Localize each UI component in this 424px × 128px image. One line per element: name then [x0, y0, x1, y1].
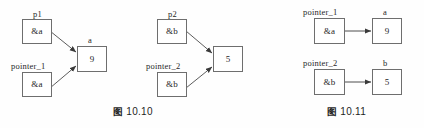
box-p2: &b	[157, 19, 187, 44]
box-pointer-1: &a	[22, 72, 52, 97]
figure-sheet: p1 &a pointer_1 &a a 9 p2 &b pointer_2 &…	[0, 0, 424, 128]
caption-fig-10-10: 图 10.10	[113, 107, 153, 117]
arrow-p2-to-b	[186, 31, 212, 53]
label-p1: p1	[33, 10, 42, 19]
caption-fig-10-11: 图 10.11	[327, 107, 366, 117]
caption-number: 10.10	[126, 106, 153, 117]
label-pointer-1-right: pointer_1	[303, 8, 337, 17]
box-a-value-right: 9	[372, 18, 402, 44]
box-pointer-2: &b	[157, 72, 187, 97]
label-pointer-1: pointer_1	[11, 62, 45, 71]
label-pointer-2: pointer_2	[146, 62, 180, 71]
caption-cn-glyph: 图	[113, 106, 123, 117]
box-b-value-right: 5	[372, 69, 402, 95]
caption-cn-glyph: 图	[327, 106, 337, 117]
box-b-value-middle: 5	[213, 46, 243, 72]
arrow-pointer1-to-a	[50, 66, 76, 88]
box-a-value-left: 9	[77, 46, 107, 72]
box-pointer-2-right: &b	[314, 69, 345, 95]
label-pointer-2-right: pointer_2	[303, 59, 337, 68]
box-pointer-1-right: &a	[314, 18, 345, 44]
caption-number: 10.11	[340, 106, 366, 117]
label-p2: p2	[168, 10, 177, 19]
label-a-left: a	[88, 36, 92, 45]
arrow-pointer2-to-b	[186, 67, 212, 88]
label-a-right: a	[383, 8, 387, 17]
arrow-p1-to-a	[50, 31, 76, 52]
label-b-right: b	[383, 59, 387, 68]
box-p1: &a	[22, 19, 52, 44]
